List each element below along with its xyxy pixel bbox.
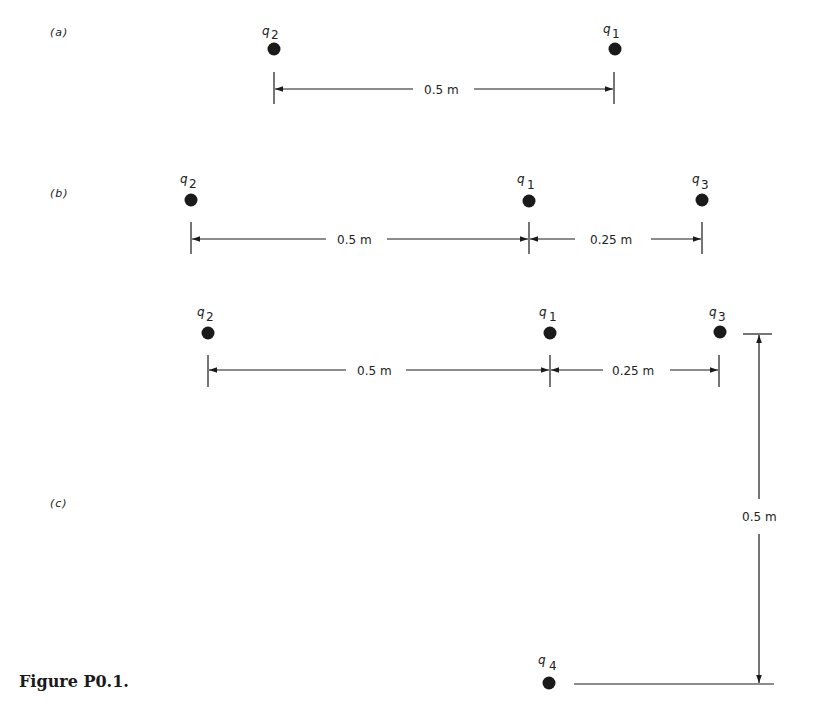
charge-q1: q 1 (603, 22, 622, 56)
svg-text:1: 1 (612, 27, 620, 41)
panel-c: (c) q 2 q 1 q 3 q 4 0.5 m (50, 305, 777, 690)
charge-dot (523, 195, 536, 208)
charge-q3: q 3 (709, 305, 727, 339)
charge-q2: q 2 (262, 24, 281, 56)
dimension-label: 0.5 m (337, 233, 372, 247)
charge-q1: q 1 (517, 172, 536, 208)
svg-text:q: q (539, 305, 547, 319)
charge-dot (696, 194, 709, 207)
charge-q1: q 1 (539, 305, 557, 340)
dimension-label: 0.25 m (590, 233, 632, 247)
dimension-label: 0.5 m (357, 364, 392, 378)
dimension-q3-q4-vertical (574, 334, 774, 684)
svg-text:q: q (517, 172, 525, 186)
svg-text:1: 1 (527, 178, 535, 192)
charge-dot (609, 43, 622, 56)
dimension-label: 0.5 m (424, 83, 459, 97)
charge-dot (714, 326, 727, 339)
panel-b: (b) q 2 q 1 q 3 0.5 m 0.25 m (50, 172, 709, 254)
svg-text:2: 2 (271, 28, 279, 42)
charge-q3: q 3 (692, 172, 709, 207)
charge-dot (268, 43, 281, 56)
svg-text:q: q (262, 24, 270, 38)
figure-canvas: (a) q 2 q 1 0.5 m (b) q 2 q 1 (0, 0, 820, 716)
svg-text:2: 2 (206, 310, 214, 324)
dimension-label: 0.5 m (742, 510, 777, 524)
charge-q2: q 2 (197, 305, 215, 340)
panel-label-b: (b) (50, 187, 69, 200)
charge-dot (544, 327, 557, 340)
svg-text:2: 2 (189, 177, 197, 191)
svg-text:4: 4 (549, 659, 557, 673)
svg-text:q: q (692, 172, 700, 186)
svg-text:q: q (538, 653, 546, 667)
panel-label-c: (c) (50, 497, 68, 510)
panel-a: (a) q 2 q 1 0.5 m (50, 22, 622, 104)
dimension-label: 0.25 m (612, 364, 654, 378)
svg-text:q: q (197, 305, 205, 319)
svg-text:3: 3 (718, 310, 726, 324)
charge-dot (543, 677, 556, 690)
svg-text:q: q (709, 305, 717, 319)
svg-text:1: 1 (549, 310, 557, 324)
charge-dot (185, 194, 198, 207)
svg-text:q: q (603, 22, 611, 36)
svg-text:q: q (180, 172, 188, 186)
panel-label-a: (a) (50, 26, 68, 39)
svg-text:3: 3 (701, 178, 709, 192)
figure-caption: Figure P0.1. (19, 672, 129, 691)
charge-dot (202, 327, 215, 340)
charge-q2: q 2 (180, 172, 198, 207)
charge-q4: q 4 (538, 653, 557, 690)
